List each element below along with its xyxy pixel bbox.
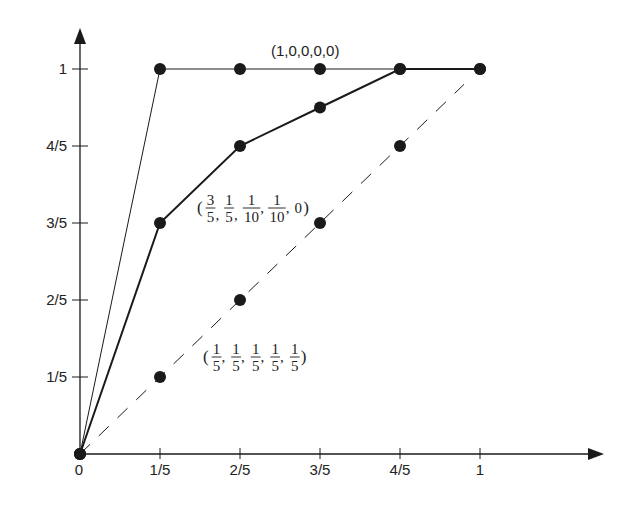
fraction: 15	[224, 192, 234, 225]
data-point	[154, 371, 166, 383]
data-point	[234, 294, 246, 306]
y-tick-label: 2/5	[46, 291, 67, 308]
fraction-numerator: 1	[248, 192, 256, 208]
x-tick-label: 0	[75, 461, 83, 478]
fraction-denominator: 5	[225, 209, 233, 225]
data-point	[314, 102, 326, 114]
data-point	[154, 217, 166, 229]
fraction: 15	[290, 341, 300, 374]
annotation-text: ,	[215, 207, 219, 223]
series-lines	[80, 69, 480, 454]
fraction-numerator: 1	[271, 341, 279, 357]
fraction: 110	[243, 192, 261, 225]
fraction-numerator: 1	[232, 341, 240, 357]
data-point	[314, 63, 326, 75]
fraction-numerator: 1	[273, 192, 281, 208]
lorenz-curve-chart: 01/52/53/54/51 1/52/53/54/51 (1,0,0,0,0)…	[0, 0, 633, 505]
annotation-text: ,	[221, 349, 225, 365]
fraction-numerator: 1	[225, 192, 233, 208]
data-point	[74, 448, 86, 460]
x-tick-label: 2/5	[230, 461, 251, 478]
data-point	[234, 140, 246, 152]
annotation-text: ,	[260, 200, 264, 216]
fraction: 15	[251, 341, 261, 374]
data-point	[394, 63, 406, 75]
y-tick-label: 1	[59, 60, 67, 77]
fraction-denominator: 10	[244, 209, 259, 225]
fraction: 15	[231, 341, 241, 374]
annotation-equal-line: (15,15,15,15,15)	[203, 341, 306, 374]
annotation-text: ,	[234, 207, 238, 223]
fraction-numerator: 3	[207, 192, 215, 208]
annotation-mid-curve: (35,15,110,110,0)	[197, 192, 309, 225]
fraction-denominator: 10	[269, 209, 284, 225]
fraction: 15	[270, 341, 280, 374]
y-axis-arrow-icon	[74, 28, 86, 44]
fraction: 15	[212, 341, 222, 374]
annotation-text: ,	[280, 349, 284, 365]
fraction-numerator: 1	[213, 341, 221, 357]
series-line-2	[80, 84, 464, 454]
data-point	[314, 217, 326, 229]
paren-open: (	[197, 198, 203, 217]
y-tick-label: 4/5	[46, 137, 67, 154]
y-tick-label: 1/5	[46, 368, 67, 385]
paren-close: )	[301, 347, 307, 366]
data-point	[394, 140, 406, 152]
data-point	[474, 63, 486, 75]
fraction-denominator: 5	[232, 358, 240, 374]
annotations: (1,0,0,0,0) (35,15,110,110,0)(15,15,15,1…	[197, 42, 339, 374]
fraction-numerator: 1	[252, 341, 260, 357]
fraction-denominator: 5	[207, 209, 215, 225]
x-tick-label: 1	[476, 461, 484, 478]
fraction-denominator: 5	[252, 358, 260, 374]
fraction: 110	[268, 192, 286, 225]
x-axis-arrow-icon	[588, 448, 604, 460]
annotation-text: ,	[261, 349, 265, 365]
paren-open: (	[203, 347, 209, 366]
annotation-text: ,	[241, 349, 245, 365]
x-tick-label: 3/5	[310, 461, 331, 478]
fraction: 35	[206, 192, 216, 225]
fraction-denominator: 5	[213, 358, 221, 374]
fraction-denominator: 5	[271, 358, 279, 374]
fraction-numerator: 1	[291, 341, 299, 357]
y-axis-ticks: 1/52/53/54/51	[46, 60, 88, 385]
annotation-degenerate: (1,0,0,0,0)	[271, 42, 339, 59]
annotation-text: ,	[286, 200, 290, 216]
data-point	[154, 63, 166, 75]
y-tick-label: 3/5	[46, 214, 67, 231]
x-axis-ticks: 01/52/53/54/51	[75, 448, 484, 478]
x-tick-label: 4/5	[390, 461, 411, 478]
paren-close: )	[303, 198, 309, 217]
x-tick-label: 1/5	[150, 461, 171, 478]
data-point	[234, 63, 246, 75]
fraction-denominator: 5	[291, 358, 299, 374]
annotation-text: 0	[294, 200, 302, 216]
